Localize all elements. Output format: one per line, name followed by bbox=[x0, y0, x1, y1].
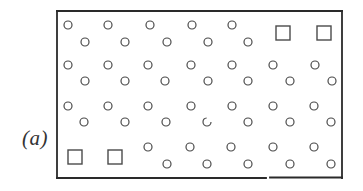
row-1-upper bbox=[64, 21, 331, 40]
atom-circle-icon bbox=[80, 118, 88, 126]
atom-circle-icon bbox=[144, 61, 152, 69]
row-3-lower bbox=[80, 118, 335, 126]
atom-circle-icon bbox=[81, 38, 89, 46]
atom-circle-icon bbox=[188, 21, 196, 29]
diagram-frame bbox=[57, 11, 342, 178]
atom-circle-icon bbox=[269, 102, 277, 110]
atom-circle-icon bbox=[269, 143, 277, 151]
atom-circle-icon bbox=[146, 21, 154, 29]
atom-circle-icon bbox=[244, 160, 252, 168]
atom-circle-icon bbox=[228, 102, 236, 110]
atom-circle-icon bbox=[163, 38, 171, 46]
vacancy-square-icon bbox=[276, 26, 290, 40]
vacancy-square-icon bbox=[68, 150, 82, 164]
atom-circle-icon bbox=[187, 61, 195, 69]
atom-circle-icon bbox=[144, 143, 152, 151]
atom-circle-icon bbox=[228, 21, 236, 29]
atom-circle-icon bbox=[327, 118, 335, 126]
atom-circle-icon bbox=[328, 77, 336, 85]
atom-circle-icon bbox=[269, 61, 277, 69]
atom-circle-icon bbox=[186, 143, 194, 151]
row-4-lower bbox=[163, 160, 335, 168]
vacancy-square-icon bbox=[108, 150, 122, 164]
atom-circle-icon bbox=[121, 118, 129, 126]
atom-circle-icon bbox=[121, 38, 129, 46]
atom-circle-icon bbox=[203, 160, 211, 168]
figure-label: (a) bbox=[22, 126, 48, 151]
atom-circle-icon bbox=[104, 61, 112, 69]
atom-circle-icon bbox=[286, 160, 294, 168]
atom-circle-icon bbox=[187, 102, 195, 110]
atom-circle-icon bbox=[244, 118, 252, 126]
lattice-sites bbox=[64, 21, 336, 168]
atom-circle-icon bbox=[286, 118, 294, 126]
atom-circle-icon bbox=[104, 21, 112, 29]
atom-circle-icon bbox=[81, 77, 89, 85]
atom-circle-icon bbox=[204, 38, 212, 46]
atom-circle-icon bbox=[327, 160, 335, 168]
atom-circle-icon bbox=[286, 77, 294, 85]
atom-circle-icon bbox=[310, 143, 318, 151]
atom-circle-icon bbox=[104, 102, 112, 110]
lattice-vacancy-diagram: (a) bbox=[0, 0, 363, 191]
row-1-lower bbox=[81, 38, 252, 46]
atom-circle-icon bbox=[204, 77, 212, 85]
atom-circle-icon bbox=[163, 160, 171, 168]
row-2-upper bbox=[64, 61, 319, 69]
lattice-canvas bbox=[0, 0, 363, 191]
atom-circle-icon bbox=[228, 61, 236, 69]
atom-circle-icon bbox=[64, 61, 72, 69]
atom-circle-icon bbox=[64, 102, 72, 110]
atom-circle-icon bbox=[162, 118, 170, 126]
atom-circle-icon bbox=[121, 77, 129, 85]
atom-circle-icon bbox=[227, 143, 235, 151]
atom-circle-icon bbox=[144, 102, 152, 110]
atom-circle-icon bbox=[244, 38, 252, 46]
atom-circle-icon bbox=[161, 77, 169, 85]
atom-circle-icon bbox=[203, 118, 211, 126]
row-3-upper bbox=[64, 102, 318, 110]
atom-circle-icon bbox=[310, 102, 318, 110]
vacancy-square-icon bbox=[317, 26, 331, 40]
row-2-lower bbox=[81, 77, 336, 85]
atom-circle-icon bbox=[244, 77, 252, 85]
atom-circle-icon bbox=[64, 21, 72, 29]
atom-circle-icon bbox=[311, 61, 319, 69]
row-4-upper bbox=[68, 143, 318, 164]
